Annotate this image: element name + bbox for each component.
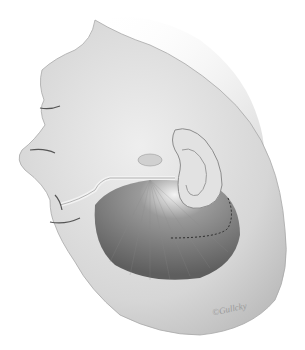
parotid-structure [138, 154, 162, 166]
medical-illustration [0, 0, 305, 350]
